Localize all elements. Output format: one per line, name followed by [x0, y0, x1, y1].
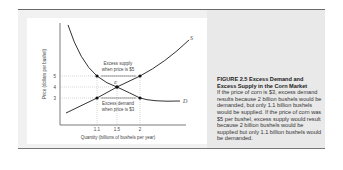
y-tick-3: 3	[53, 96, 56, 101]
excess-demand-text-2: when price is $3	[102, 107, 135, 112]
excess-supply-text-1: Excess supply	[104, 61, 134, 66]
x-axis-title: Quantity (billions of bushels per year)	[81, 135, 156, 140]
supply-label: S	[190, 35, 193, 41]
excess-demand-text-1: Excess demand	[102, 101, 135, 106]
x-tick-1-1: 1.1	[94, 127, 101, 132]
y-tick-4: 4	[53, 85, 56, 90]
x-tick-1-5: 1.5	[114, 127, 121, 132]
excess-supply-text-2: when price is $5	[102, 67, 135, 72]
caption-title: FIGURE 2.5 Excess Demand and Excess Supp…	[217, 76, 323, 89]
caption-body: If the price of corn is $3, excess deman…	[217, 89, 323, 142]
x-tick-2: 2	[139, 127, 142, 132]
figure-caption: FIGURE 2.5 Excess Demand and Excess Supp…	[217, 76, 323, 142]
y-tick-5: 5	[53, 74, 56, 79]
equilibrium-label: E	[113, 80, 117, 85]
demand-label: D	[182, 98, 188, 104]
y-axis-title: Price (dollars per bushel)	[42, 48, 47, 99]
